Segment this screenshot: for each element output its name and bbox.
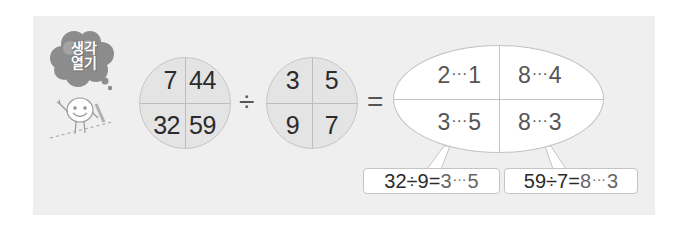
callout-quotient: 3 [440,170,451,193]
callout-expression: 59÷7= [524,170,580,193]
remainder: 4 [549,62,562,89]
separator: ··· [532,65,548,83]
quotient: 8 [518,62,531,89]
callout-quotient: 8 [580,170,591,193]
callout-remainder: 3 [607,170,618,193]
separator: ··· [451,112,467,130]
result-top-right: 8···4 [499,46,604,99]
callout-remainder: 5 [468,170,479,193]
result-ellipse: 2···1 8···4 3···5 8···3 [393,45,604,153]
result-bottom-left: 3···5 [394,99,499,152]
remainder: 3 [549,109,562,136]
quotient: 2 [437,62,450,89]
result-top-left: 2···1 [394,46,499,99]
remainder: 1 [468,62,481,89]
separator: ··· [451,65,467,83]
quotient: 3 [437,109,450,136]
callout-box-2: 59÷7=8···3 [504,168,638,194]
quotient: 8 [518,109,531,136]
result-bottom-right: 8···3 [499,99,604,152]
callout-box-1: 32÷9=3···5 [363,168,500,194]
separator: ··· [532,112,548,130]
remainder: 5 [468,109,481,136]
callout-expression: 32÷9= [384,170,440,193]
callout-separator: ··· [453,171,467,187]
callout-separator: ··· [592,171,606,187]
